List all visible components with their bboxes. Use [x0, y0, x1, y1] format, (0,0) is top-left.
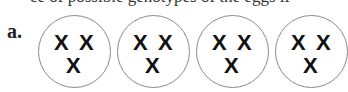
chromosome-x: X — [303, 55, 318, 77]
chromosome-x: X — [212, 32, 227, 54]
chromosome-x: X — [158, 32, 173, 54]
figure-label: a. — [7, 20, 22, 43]
chromosome-x: X — [316, 32, 331, 54]
cell-2: X X X — [117, 15, 190, 88]
chromosome-x: X — [133, 32, 148, 54]
chromosome-x: X — [79, 32, 94, 54]
chromosome-x: X — [224, 55, 239, 77]
clipped-text-line: ce of possible genotypes of the eggs if — [30, 0, 290, 7]
chromosome-x: X — [291, 32, 306, 54]
chromosome-x: X — [237, 32, 252, 54]
chromosome-x: X — [145, 55, 160, 77]
chromosome-x: X — [54, 32, 69, 54]
cell-4: X X X — [275, 15, 348, 88]
chromosome-x: X — [66, 55, 81, 77]
cell-3: X X X — [196, 15, 269, 88]
cell-1: X X X — [38, 15, 111, 88]
